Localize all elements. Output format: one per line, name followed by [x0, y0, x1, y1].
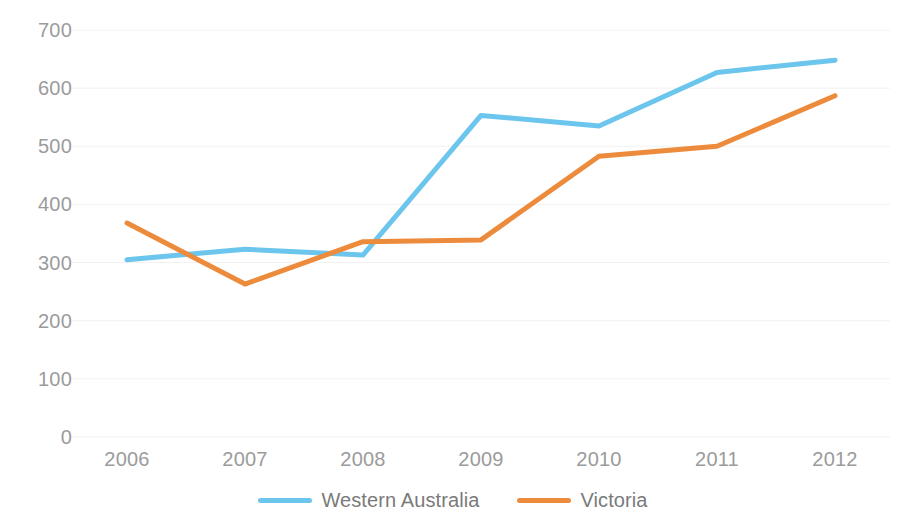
legend-swatch-icon: [517, 498, 571, 503]
x-tick-label: 2008: [313, 448, 413, 471]
x-tick-label: 2007: [195, 448, 295, 471]
series-line-1[interactable]: [127, 96, 835, 284]
y-tick-label: 100: [14, 368, 72, 390]
chart-plot-area: [0, 0, 906, 519]
chart-legend: Western AustraliaVictoria: [0, 489, 906, 512]
y-tick-label: 200: [14, 310, 72, 332]
y-tick-label: 0: [14, 426, 72, 448]
legend-label: Western Australia: [321, 489, 479, 512]
x-tick-label: 2011: [667, 448, 767, 471]
x-tick-label: 2010: [549, 448, 649, 471]
series-line-0[interactable]: [127, 60, 835, 259]
y-tick-label: 500: [14, 135, 72, 157]
gridlines: [72, 30, 890, 437]
x-tick-label: 2012: [785, 448, 885, 471]
legend-item-1[interactable]: Victoria: [517, 489, 647, 512]
y-tick-label: 600: [14, 77, 72, 99]
x-tick-label: 2009: [431, 448, 531, 471]
y-tick-label: 400: [14, 193, 72, 215]
y-tick-label: 700: [14, 19, 72, 41]
line-chart: 0100200300400500600700 20062007200820092…: [0, 0, 906, 519]
legend-label: Victoria: [580, 489, 647, 512]
series-lines: [127, 60, 835, 284]
legend-item-0[interactable]: Western Australia: [258, 489, 479, 512]
x-tick-label: 2006: [77, 448, 177, 471]
legend-swatch-icon: [258, 498, 312, 503]
y-tick-label: 300: [14, 252, 72, 274]
